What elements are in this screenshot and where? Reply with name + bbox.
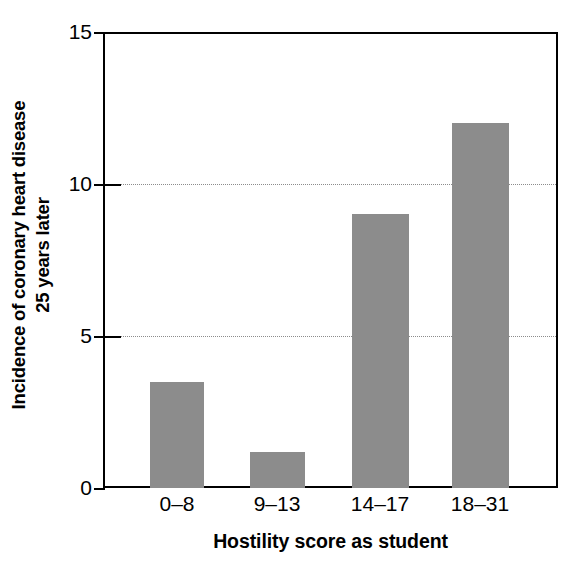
bar-14-17 [352, 214, 409, 488]
y-axis-tick-labels: 15 10 5 0 [40, 32, 92, 488]
y-tick-label-15: 15 [46, 20, 92, 44]
x-axis-tick-labels: 0–8 9–13 14–17 18–31 [103, 492, 558, 526]
x-tick-label-9-13: 9–13 [254, 492, 301, 516]
x-tick-label-18-31: 18–31 [451, 492, 509, 516]
bar-chart-figure: Incidence of coronary heart disease 25 y… [0, 0, 578, 564]
x-tick-label-14-17: 14–17 [351, 492, 409, 516]
bar-18-31 [452, 123, 509, 488]
y-tick-label-0: 0 [46, 476, 92, 500]
bar-0-8 [150, 382, 204, 488]
bar-9-13 [250, 452, 305, 488]
x-axis-title: Hostility score as student [103, 530, 558, 553]
bars-container [103, 32, 558, 488]
y-tick-label-10: 10 [46, 172, 92, 196]
y-axis-title-line1: Incidence of coronary heart disease [8, 101, 29, 410]
y-tick-label-5: 5 [46, 324, 92, 348]
x-tick-label-0-8: 0–8 [159, 492, 194, 516]
